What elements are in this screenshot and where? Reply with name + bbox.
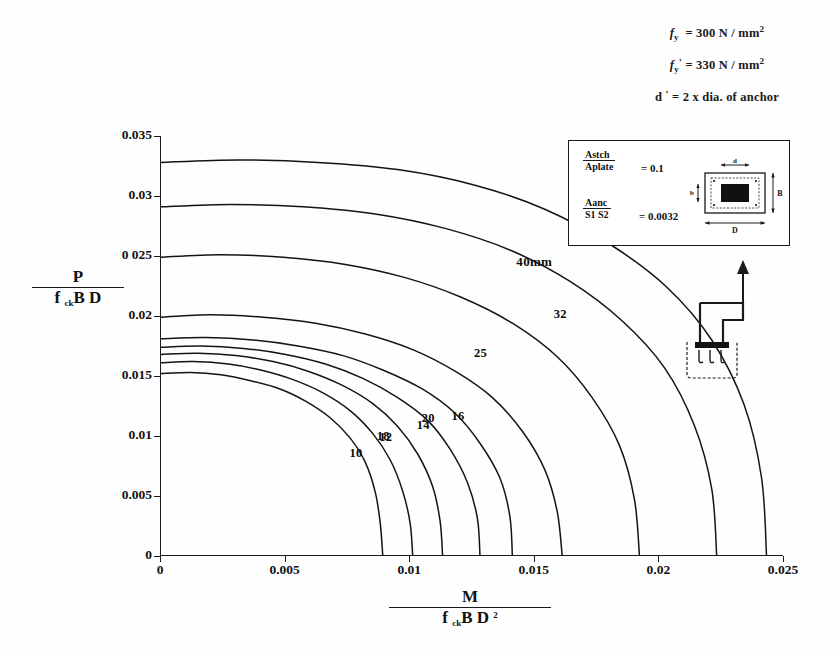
curve-label-20: 20 — [422, 411, 435, 426]
y-axis-numerator: P — [18, 268, 138, 286]
ratio-1-value: = 0.1 — [641, 162, 664, 174]
x-tick-mark — [534, 556, 535, 562]
note-d-prime: d ' = 2 x dia. of anchor — [600, 88, 834, 105]
y-axis-denominator: f ckB D — [18, 289, 138, 308]
y-tick-mark — [154, 496, 161, 497]
y-tick-mark — [154, 196, 161, 197]
plate-dim-b: b — [690, 189, 694, 197]
y-tick-label: 0.02 — [128, 307, 152, 323]
y-tick-mark — [154, 376, 161, 377]
interaction-curve — [161, 346, 480, 556]
y-tick-label: 0.035 — [122, 127, 152, 143]
ratio-2-value: = 0.0032 — [639, 210, 678, 222]
material-properties-notes: fy = 300 N / mm2 fy' = 330 N / mm2 d ' =… — [600, 24, 834, 119]
y-axis-ticks: 00.0050.010.0150.020 0250.030.035 — [60, 0, 152, 656]
ratio-1-denominator: Aplate — [583, 161, 615, 172]
curve-label-32: 32 — [554, 307, 567, 322]
plate-dim-D: D — [732, 226, 738, 235]
ratio-aanc-s1s2: Aanc S1 S2 — [583, 197, 611, 220]
x-tick-mark — [783, 556, 784, 562]
interaction-curve — [161, 362, 413, 556]
x-tick-label: 0.01 — [397, 562, 421, 578]
y-tick-mark — [154, 316, 161, 317]
x-tick-label: 0.025 — [768, 562, 798, 578]
y-tick-label: 0.005 — [122, 487, 152, 503]
y-tick-label: 0 — [145, 547, 152, 563]
y-tick-label: 0.015 — [122, 367, 152, 383]
y-tick-label: 0.03 — [128, 187, 152, 203]
y-tick-mark — [154, 436, 161, 437]
ratio-2-denominator: S1 S2 — [583, 209, 611, 220]
note-fy: fy = 300 N / mm2 — [600, 24, 834, 42]
base-plate-detail-diagram: d D b B — [687, 157, 783, 235]
x-tick-mark — [409, 556, 410, 562]
x-tick-label: 0.005 — [269, 562, 299, 578]
interaction-curve — [161, 315, 562, 556]
x-axis-numerator: M — [375, 588, 565, 606]
curve-label-10: 10 — [349, 446, 362, 461]
curve-label-18: 18 — [377, 429, 390, 444]
ratio-1-numerator: Astch — [583, 149, 615, 160]
y-tick-label: 0 025 — [122, 247, 152, 263]
interaction-curve — [161, 372, 383, 556]
interaction-curve — [161, 255, 639, 556]
figure-page: fy = 300 N / mm2 fy' = 330 N / mm2 d ' =… — [0, 0, 834, 656]
x-tick-label: 0.02 — [647, 562, 671, 578]
anchor-bolt-elevation-sketch — [655, 258, 785, 386]
curve-label-40mm: 40mm — [516, 254, 552, 270]
x-tick-mark — [658, 556, 659, 562]
plate-dim-B: B — [777, 189, 783, 198]
x-tick-mark — [160, 556, 161, 562]
interaction-curve — [161, 338, 512, 556]
x-tick-mark — [285, 556, 286, 562]
x-axis-denominator: f ckB D 2 — [375, 609, 565, 628]
x-tick-label: 0 — [157, 562, 164, 578]
x-axis-title: M f ckB D 2 — [375, 588, 565, 628]
y-axis-title: P f ckB D — [18, 268, 138, 308]
x-tick-label: 0.015 — [519, 562, 549, 578]
interaction-curve — [161, 204, 717, 556]
note-fy-prime: fy' = 330 N / mm2 — [600, 56, 834, 74]
ratio-astch-aplate: Astch Aplate — [583, 149, 615, 172]
plate-dim-d: d — [733, 157, 737, 165]
y-tick-mark — [154, 136, 161, 137]
y-tick-mark — [154, 256, 161, 257]
y-tick-label: 0.01 — [128, 427, 152, 443]
inset-assumptions-box: Astch Aplate = 0.1 Aanc S1 S2 = 0.0032 — [568, 140, 790, 246]
ratio-2-numerator: Aanc — [583, 197, 611, 208]
curve-label-25: 25 — [474, 346, 487, 361]
curve-label-16: 16 — [452, 409, 465, 424]
